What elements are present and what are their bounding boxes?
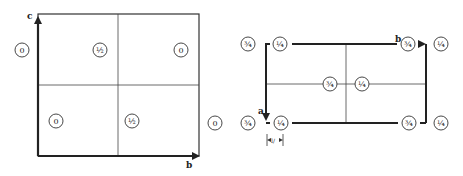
dimension-marker bbox=[267, 134, 283, 146]
atom-marker: ¼ bbox=[434, 37, 448, 51]
atom-marker: 0 bbox=[208, 116, 222, 130]
atom-height-label: ¼ bbox=[437, 40, 445, 49]
atom-height-label: ½ bbox=[96, 46, 104, 55]
atom-height-label: ¾ bbox=[244, 40, 252, 49]
atom-height-label: 0 bbox=[19, 46, 24, 55]
atom-marker: 0 bbox=[174, 43, 188, 57]
atom-marker: 0 bbox=[15, 43, 29, 57]
atom-height-label: 0 bbox=[212, 119, 217, 128]
a-axis-arrow bbox=[266, 44, 270, 119]
atom-marker: ¾ bbox=[241, 116, 255, 130]
right-unit-cell bbox=[266, 44, 426, 146]
atom-height-label: ¼ bbox=[277, 119, 285, 128]
atom-height-label: 0 bbox=[53, 117, 58, 126]
atom-height-label: ¾ bbox=[404, 40, 412, 49]
atom-marker: ¾ bbox=[402, 116, 416, 130]
atom-marker: 0 bbox=[49, 114, 63, 128]
atom-marker: ¾ bbox=[401, 37, 415, 51]
b-axis-label-left: b bbox=[186, 160, 192, 170]
b-axis-label-right: b bbox=[395, 34, 401, 44]
a-axis-label: a bbox=[258, 106, 264, 116]
atom-height-label: ¼ bbox=[276, 40, 284, 49]
atom-marker: ½ bbox=[125, 114, 139, 128]
atom-marker: ¾ bbox=[323, 77, 337, 91]
crystal-structure-diagrams: 0½00½0¾¼¾¼¾¼¾¼¾¼ c b a b l/ bbox=[0, 0, 463, 176]
dimension-label: l/ bbox=[271, 137, 276, 144]
atom-height-label: ¾ bbox=[405, 119, 413, 128]
atom-marker: ¼ bbox=[434, 116, 448, 130]
atom-height-label: ¼ bbox=[437, 119, 445, 128]
c-axis-label: c bbox=[27, 11, 33, 21]
atom-positions: 0½00½0¾¼¾¼¾¼¾¼¾¼ bbox=[15, 37, 448, 130]
atom-height-label: ¾ bbox=[326, 80, 334, 89]
atom-marker: ½ bbox=[93, 43, 107, 57]
atom-height-label: 0 bbox=[178, 46, 183, 55]
atom-marker: ¼ bbox=[355, 77, 369, 91]
atom-marker: ¼ bbox=[273, 37, 287, 51]
left-unit-cell bbox=[38, 14, 199, 156]
atom-marker: ¾ bbox=[241, 37, 255, 51]
atom-height-label: ¼ bbox=[358, 80, 366, 89]
atom-height-label: ½ bbox=[128, 117, 136, 126]
atom-marker: ¼ bbox=[274, 116, 288, 130]
atom-height-label: ¾ bbox=[244, 119, 252, 128]
